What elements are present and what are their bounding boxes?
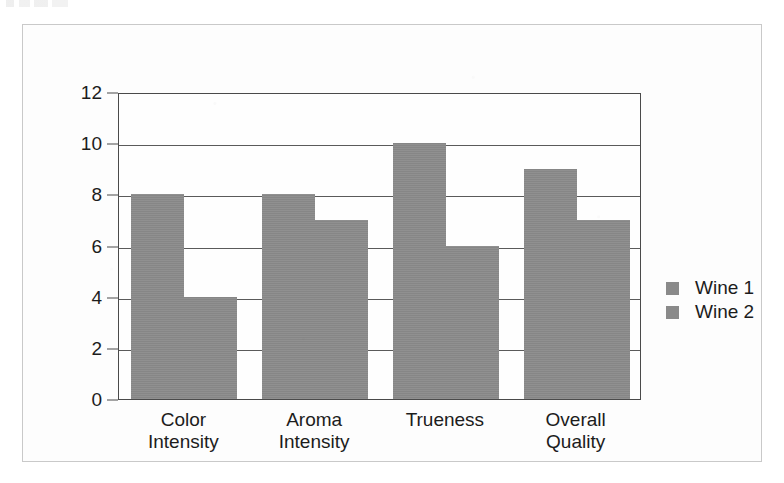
y-tick-label: 2 (91, 338, 102, 360)
y-tick-label: 8 (91, 184, 102, 206)
y-tick-label: 0 (91, 389, 102, 411)
y-tick-mark (107, 144, 118, 145)
bar-1-group-1 (131, 194, 184, 399)
y-tick-label: 4 (91, 287, 102, 309)
y-tick-label: 6 (91, 236, 102, 258)
legend-swatch-icon (666, 282, 679, 295)
y-tick-mark (107, 93, 118, 94)
y-tick-label: 10 (81, 133, 102, 155)
y-tick-mark (107, 348, 118, 349)
scan-artifact-text (6, 0, 76, 7)
y-tick-label: 12 (81, 82, 102, 104)
legend-label: Wine 1 (695, 277, 754, 299)
x-category-label-1: Color Intensity (118, 409, 249, 453)
bar-1-group-4 (524, 169, 577, 399)
y-tick-mark (107, 400, 118, 401)
bar-2-group-3 (446, 246, 499, 400)
bar-2-group-1 (184, 297, 237, 399)
x-category-label-3: Trueness (380, 409, 511, 431)
chart-legend: Wine 1Wine 2 (666, 276, 754, 324)
gridline-10 (119, 145, 640, 146)
legend-item-1: Wine 1 (666, 276, 754, 300)
x-category-label-4: Overall Quality (510, 409, 641, 453)
figure-frame: 024681012 Color IntensityAroma Intensity… (22, 24, 762, 462)
legend-swatch-icon (666, 306, 679, 319)
y-tick-mark (107, 246, 118, 247)
plot-area (118, 93, 641, 400)
bar-1-group-3 (393, 143, 446, 399)
bar-2-group-4 (577, 220, 630, 399)
y-tick-mark (107, 195, 118, 196)
legend-label: Wine 2 (695, 301, 754, 323)
legend-item-2: Wine 2 (666, 300, 754, 324)
y-tick-mark (107, 297, 118, 298)
bar-2-group-2 (315, 220, 368, 399)
bar-1-group-2 (262, 194, 315, 399)
x-category-label-2: Aroma Intensity (249, 409, 380, 453)
